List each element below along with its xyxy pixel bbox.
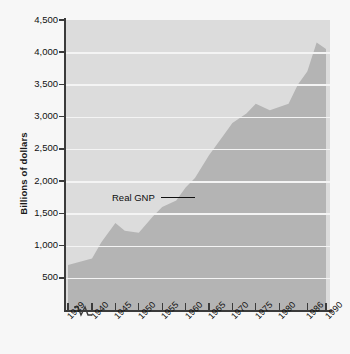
x-axis-tick-group: 1929194019451950195519601965197019751980…: [0, 0, 350, 354]
series-annotation-label: Real GNP: [112, 192, 155, 203]
series-annotation: Real GNP: [112, 192, 195, 203]
series-annotation-leader-line: [161, 197, 195, 199]
gnp-area-chart-figure: Billions of dollars 4,5004,0003,5003,000…: [0, 0, 350, 354]
